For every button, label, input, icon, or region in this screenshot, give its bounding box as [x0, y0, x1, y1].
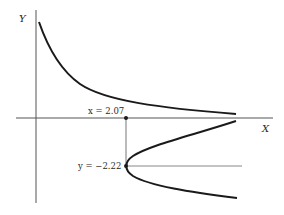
vertex-point	[124, 164, 128, 168]
x-intercept-point	[124, 116, 128, 120]
x-point-annotation: x = 2.07	[88, 106, 124, 116]
x-axis-label: X	[261, 123, 270, 134]
upper-decreasing-curve	[39, 22, 236, 114]
y-point-annotation: y = −2.22	[77, 161, 121, 171]
lower-parabola-curve	[126, 121, 237, 198]
diagram-figure: Y X x = 2.07 y = −2.22	[0, 0, 284, 215]
y-axis-label: Y	[19, 13, 27, 24]
